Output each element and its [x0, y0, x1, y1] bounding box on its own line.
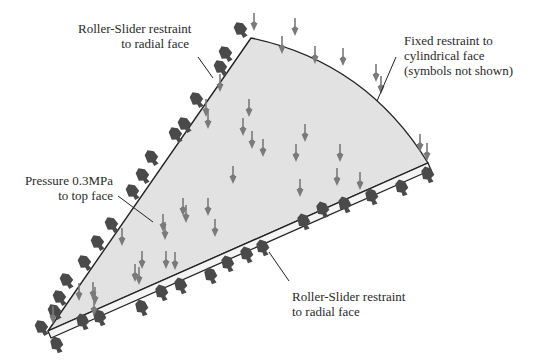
top-left-leader [198, 57, 213, 78]
pressure-arrow-icon [340, 48, 347, 66]
restraint-symbol-icon [32, 317, 51, 338]
pressure-arrow-icon [251, 13, 258, 31]
top-right-leader [377, 57, 396, 101]
label-fixed-restraint: Fixed restraint to cylindrical face (sym… [404, 33, 513, 78]
bottom-right-leader [269, 252, 289, 281]
restraint-symbol-icon [142, 147, 161, 168]
label-pressure: Pressure 0.3MPa to top face [22, 173, 113, 203]
pressure-arrow-icon [373, 64, 380, 82]
label-roller-slider-top: Roller-Slider restraint to radial face [78, 21, 189, 51]
restraint-symbol-icon [133, 165, 152, 186]
label-roller-slider-bottom: Roller-Slider restraint to radial face [292, 289, 405, 319]
restraint-symbol-icon [231, 19, 250, 40]
restraint-symbol-icon [57, 270, 76, 291]
pressure-arrow-icon [292, 18, 299, 36]
sector-diagram: Roller-Slider restraint to radial face F… [0, 0, 543, 362]
